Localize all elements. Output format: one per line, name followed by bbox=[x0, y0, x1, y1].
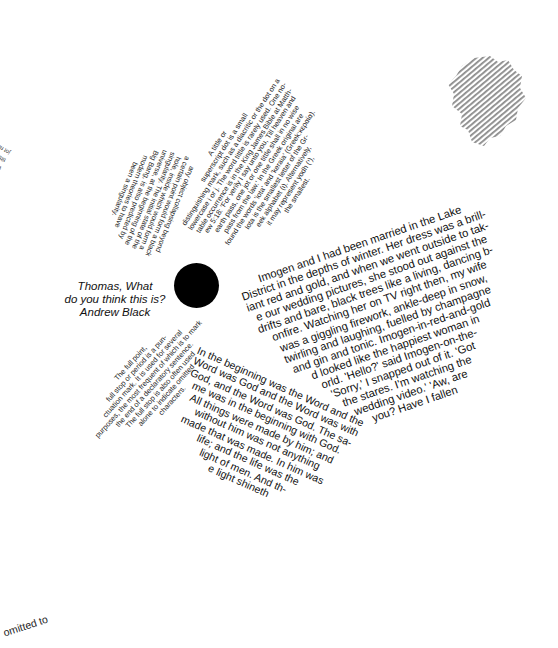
word-trail-inner: si the Unity the ign of Sovere slept pro… bbox=[0, 140, 12, 307]
center-black-dot bbox=[174, 263, 219, 308]
bottom-text-fragment: omitted to bbox=[2, 614, 49, 639]
caption-author: Andrew Black bbox=[56, 306, 174, 319]
caption-line: Thomas, What bbox=[56, 280, 174, 293]
text-line: omitted to bbox=[2, 614, 49, 639]
artwork-caption: Thomas, What do you think this is? Andre… bbox=[56, 280, 174, 319]
caption-line: do you think this is? bbox=[56, 293, 174, 306]
petal-word-trail: si the Unity the ign of Sovere slept pro… bbox=[0, 140, 12, 307]
micro-text-cluster bbox=[446, 56, 526, 148]
